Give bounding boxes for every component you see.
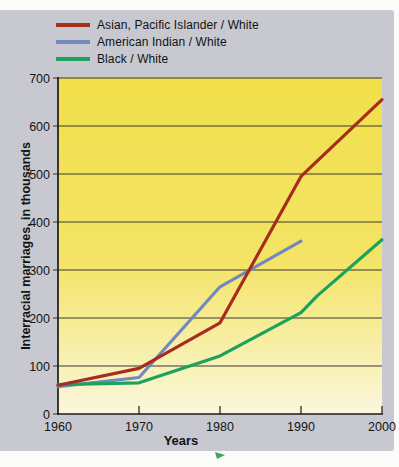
x-tick-label-1970: 1970 — [125, 420, 153, 434]
y-tick-label-600: 600 — [29, 120, 50, 134]
y-tick-label-100: 100 — [29, 360, 50, 374]
x-tick-label-2000: 2000 — [368, 420, 396, 434]
x-tick-label-1960: 1960 — [44, 420, 72, 434]
plot-area — [58, 78, 382, 414]
figure: Asian, Pacific Islander / White American… — [0, 0, 399, 467]
x-tick-label-1980: 1980 — [206, 420, 234, 434]
y-axis-title: Interracial marriages, in thousands — [19, 142, 33, 350]
line-chart: 0100200300400500600700196019701980199020… — [0, 0, 399, 467]
x-axis-title: Years — [164, 433, 199, 448]
green-cursor-arrow-icon — [215, 451, 226, 460]
x-tick-label-1990: 1990 — [287, 420, 315, 434]
y-tick-label-700: 700 — [29, 72, 50, 86]
